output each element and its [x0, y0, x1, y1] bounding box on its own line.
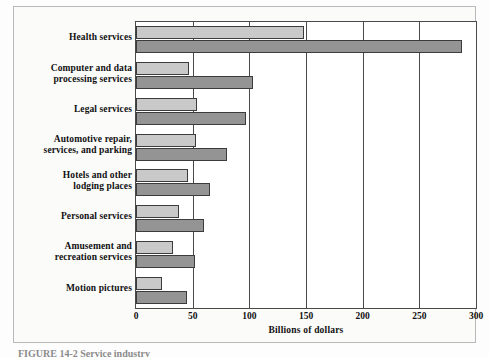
category-label-line: Hotels and other	[28, 170, 132, 181]
category-label: Personal services	[28, 211, 132, 222]
bar-light	[136, 277, 162, 290]
bar-light	[136, 98, 197, 111]
bar-dark	[136, 76, 253, 89]
x-axis-title: Billions of dollars	[135, 325, 477, 335]
bar-light	[136, 169, 188, 182]
category-label: Legal services	[28, 104, 132, 115]
category-label-line: Health services	[28, 32, 132, 43]
category-label-line: Personal services	[28, 211, 132, 222]
bar-light	[136, 26, 304, 39]
bar-group	[136, 22, 476, 58]
bar-group	[136, 58, 476, 94]
category-label: Motion pictures	[28, 283, 132, 294]
figure-caption: FIGURE 14-2 Service industry	[18, 348, 438, 357]
bar-dark	[136, 148, 227, 161]
category-label: Hotels and otherlodging places	[28, 170, 132, 192]
category-label-line: lodging places	[28, 181, 132, 192]
bar-dark	[136, 40, 462, 53]
bar-group	[136, 165, 476, 201]
bar-group	[136, 237, 476, 273]
category-label-line: recreation services	[28, 252, 132, 263]
x-tick-label-300: 300	[469, 311, 483, 321]
x-tick-label-50: 50	[188, 311, 198, 321]
category-label-line: processing services	[28, 74, 132, 85]
category-label-line: Legal services	[28, 104, 132, 115]
x-tick-label-100: 100	[242, 311, 256, 321]
category-label-line: Automotive repair,	[28, 134, 132, 145]
x-axis-tick-labels: 050100150200250300	[14, 311, 489, 325]
category-label-line: Computer and data	[28, 63, 132, 74]
chart-plot-area	[135, 21, 477, 309]
bar-dark	[136, 183, 210, 196]
x-tick-label-200: 200	[356, 311, 370, 321]
bar-rows	[136, 22, 476, 308]
category-label: Health services	[28, 32, 132, 43]
gridline-300	[476, 22, 477, 308]
category-label: Amusement andrecreation services	[28, 241, 132, 263]
bar-group	[136, 272, 476, 308]
bar-light	[136, 205, 179, 218]
x-tick-label-0: 0	[134, 311, 139, 321]
bar-dark	[136, 219, 204, 232]
figure-frame: Health servicesComputer and dataprocessi…	[13, 6, 476, 343]
bar-dark	[136, 255, 195, 268]
bar-group	[136, 201, 476, 237]
bar-dark	[136, 291, 187, 304]
bar-light	[136, 134, 196, 147]
category-label: Computer and dataprocessing services	[28, 63, 132, 85]
bar-light	[136, 241, 173, 254]
bar-group	[136, 129, 476, 165]
category-label-line: services, and parking	[28, 145, 132, 156]
category-label-line: Amusement and	[28, 241, 132, 252]
category-label: Automotive repair,services, and parking	[28, 134, 132, 156]
category-label-line: Motion pictures	[28, 283, 132, 294]
bar-dark	[136, 112, 246, 125]
x-tick-label-250: 250	[412, 311, 426, 321]
bar-light	[136, 62, 189, 75]
category-axis-labels: Health servicesComputer and dataprocessi…	[28, 21, 132, 309]
figure-page: Health servicesComputer and dataprocessi…	[0, 0, 489, 357]
bar-group	[136, 94, 476, 130]
x-tick-label-150: 150	[299, 311, 313, 321]
